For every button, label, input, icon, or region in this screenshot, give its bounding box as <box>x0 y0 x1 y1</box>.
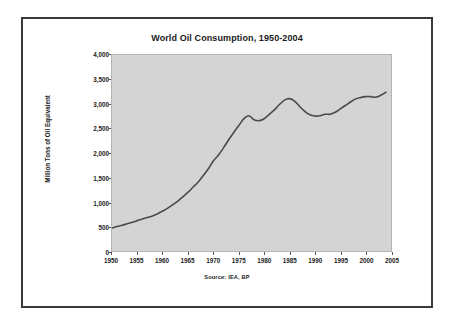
y-axis-tick-label: 0 <box>69 249 109 256</box>
x-axis-tick-label: 2005 <box>372 257 412 264</box>
x-axis-tick-mark <box>188 252 189 255</box>
y-axis-tick-label: 2,500 <box>69 125 109 132</box>
plot-area <box>111 54 392 252</box>
y-axis-title: Million Tons of Oil Equivalent <box>42 0 54 69</box>
x-axis-tick-mark <box>290 252 291 255</box>
y-axis-tick-label: 1,000 <box>69 199 109 206</box>
x-axis-tick-mark <box>315 252 316 255</box>
y-axis-title-label: Million Tons of Oil Equivalent <box>42 69 54 209</box>
x-axis-tick-mark <box>264 252 265 255</box>
y-axis-tick-label: 3,500 <box>69 75 109 82</box>
source-note: Source: IEA, BP <box>23 274 431 280</box>
x-axis-tick-mark <box>162 252 163 255</box>
y-axis-tick-label: 2,000 <box>69 150 109 157</box>
plot-wrap: 05001,0001,5002,0002,5003,0003,5004,000 … <box>90 54 392 252</box>
y-axis-tick-label: 4,000 <box>69 51 109 58</box>
line-chart-svg <box>112 55 391 251</box>
chart-title: World Oil Consumption, 1950-2004 <box>23 33 431 43</box>
x-axis-tick-mark <box>137 252 138 255</box>
y-axis-tick-label: 1,500 <box>69 174 109 181</box>
figure-frame: World Oil Consumption, 1950-2004 Million… <box>21 17 433 308</box>
x-axis-tick-mark <box>239 252 240 255</box>
y-axis-tick-label: 3,000 <box>69 100 109 107</box>
x-axis-tick-mark <box>111 252 112 255</box>
x-axis-tick-mark <box>392 252 393 255</box>
y-axis-tick-label: 500 <box>69 224 109 231</box>
x-axis-tick-mark <box>366 252 367 255</box>
x-axis-tick-mark <box>213 252 214 255</box>
x-axis-tick-mark <box>341 252 342 255</box>
series-line-world-oil-consumption <box>112 92 386 228</box>
